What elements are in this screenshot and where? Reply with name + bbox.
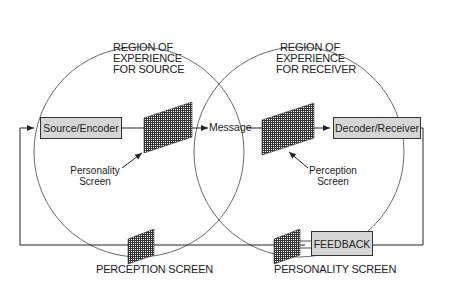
personality-screen-source bbox=[144, 102, 192, 153]
personality-line1: Personality bbox=[68, 165, 122, 176]
source-region-circle bbox=[34, 47, 244, 257]
receiver-region-title: REGION OF EXPERIENCE FOR RECEIVER bbox=[276, 42, 344, 75]
personality-screen-label: Personality Screen bbox=[68, 165, 122, 187]
source-region-line3: FOR SOURCE bbox=[113, 64, 171, 75]
message-label: Message bbox=[209, 122, 252, 133]
diagram-canvas bbox=[0, 0, 462, 286]
personality-screen-bottom-label: PERSONALITY SCREEN bbox=[274, 264, 396, 275]
personality-screen-feedback bbox=[274, 229, 300, 264]
perception-screen-bottom-label: PERCEPTION SCREEN bbox=[96, 264, 213, 275]
source-region-title: REGION OF EXPERIENCE FOR SOURCE bbox=[113, 42, 171, 75]
perception-line2: Screen bbox=[308, 176, 358, 187]
perception-line1: Perception bbox=[308, 165, 358, 176]
source-encoder-box: Source/Encoder bbox=[40, 117, 122, 139]
feedback-box: FEEDBACK bbox=[311, 231, 373, 256]
decoder-receiver-box: Decoder/Receiver bbox=[333, 117, 421, 139]
receiver-region-circle bbox=[194, 47, 404, 257]
personality-line2: Screen bbox=[68, 176, 122, 187]
perception-screen-feedback bbox=[128, 229, 154, 264]
perception-screen-label: Perception Screen bbox=[308, 165, 358, 187]
perception-screen-receiver bbox=[262, 103, 314, 155]
personality-pointer-arrow bbox=[122, 153, 142, 168]
perception-pointer-arrow bbox=[289, 152, 308, 168]
receiver-region-line3: FOR RECEIVER bbox=[276, 64, 344, 75]
